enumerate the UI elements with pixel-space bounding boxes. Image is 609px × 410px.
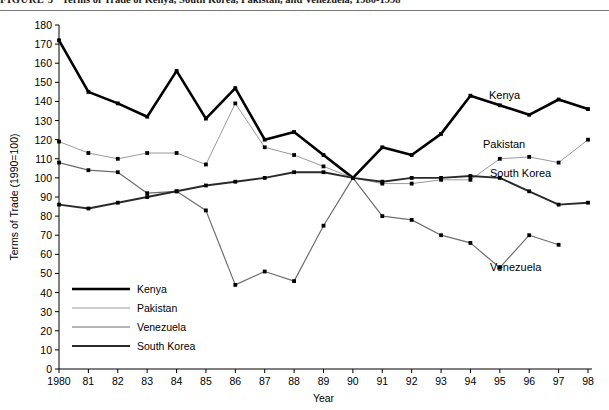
x-axis-tick-label: 1980 [47,375,71,387]
data-point-marker [557,243,561,247]
data-point-marker [175,151,179,155]
x-axis-tick-label: 95 [494,375,506,387]
y-axis-tick-label: 90 [40,191,52,203]
y-axis-tick-label: 40 [40,287,52,299]
x-axis-tick-label: 92 [406,375,418,387]
data-point-marker [175,189,179,193]
x-axis-tick-label: 93 [435,375,447,387]
data-point-marker [87,168,91,172]
data-point-marker [527,189,531,193]
data-point-marker [557,98,561,102]
y-axis-tick-label: 10 [40,344,52,356]
data-point-marker [87,207,91,211]
legend-label: South Korea [137,340,196,352]
data-point-marker [498,103,502,107]
data-point-marker [322,224,326,228]
data-point-marker [204,184,208,188]
series-inline-label-venezuela: Venezuela [490,261,542,273]
y-axis-tick-label: 120 [34,134,52,146]
data-point-marker [145,191,149,195]
x-axis-tick-label: 82 [112,375,124,387]
data-point-marker [263,176,267,180]
y-axis-tick-label: 50 [40,267,52,279]
data-point-marker [380,180,384,184]
data-point-marker [145,115,149,119]
data-point-marker [351,176,355,180]
data-point-marker [410,153,414,157]
x-axis-tick-label: 85 [200,375,212,387]
data-point-marker [410,218,414,222]
x-axis-title: Year [313,392,335,404]
data-point-marker [469,94,473,98]
y-axis-tick-label: 20 [40,325,52,337]
data-point-marker [292,170,296,174]
data-point-marker [57,38,61,42]
data-point-marker [263,145,267,149]
x-axis-tick-label: 94 [465,375,477,387]
x-axis-tick-label: 96 [523,375,535,387]
data-point-marker [469,241,473,245]
data-point-marker [175,69,179,73]
y-axis-tick-label: 110 [35,153,52,165]
y-axis-tick-label: 70 [40,229,52,241]
data-point-marker [527,233,531,237]
series-line [59,163,559,285]
legend-item-pakistan: Pakistan [72,302,177,314]
figure-container: FIGURE 5 Terms of Trade of Kenya, South … [0,0,609,410]
legend-item-kenya: Kenya [72,283,167,295]
data-point-marker [116,201,120,205]
data-point-marker [439,176,443,180]
legend-label: Pakistan [137,302,177,314]
legend-label: Kenya [137,283,167,295]
x-axis-tick-label: 98 [582,375,594,387]
data-point-marker [380,145,384,149]
data-point-marker [586,201,590,205]
x-axis-tick-label: 86 [229,375,241,387]
data-point-marker [469,174,473,178]
data-point-marker [145,151,149,155]
data-point-marker [87,90,91,94]
data-point-marker [292,153,296,157]
data-point-marker [145,195,149,199]
y-axis-tick-label: 140 [34,95,52,107]
y-axis-tick-label: 100 [34,172,52,184]
data-point-marker [410,182,414,186]
data-point-marker [410,176,414,180]
data-point-marker [57,140,61,144]
y-axis-tick-label: 130 [34,115,52,127]
y-axis-title: Terms of Trade (1990=100) [8,134,20,261]
x-axis-tick-label: 90 [347,375,359,387]
y-axis-tick-label: 0 [46,363,52,375]
series-inline-label-kenya: Kenya [489,89,521,101]
data-point-marker [527,113,531,117]
data-point-marker [204,163,208,167]
data-point-marker [322,170,326,174]
data-point-marker [233,102,237,106]
data-point-marker [57,203,61,207]
data-point-marker [233,283,237,287]
x-axis-tick-label: 88 [288,375,300,387]
y-axis-tick-label: 80 [40,210,52,222]
data-point-marker [557,203,561,207]
series-inline-label-pakistan: Pakistan [483,138,525,150]
data-point-marker [586,107,590,111]
data-point-marker [233,86,237,90]
data-point-marker [116,170,120,174]
y-axis-tick-label: 30 [40,306,52,318]
data-point-marker [439,233,443,237]
x-axis-tick-label: 81 [83,375,95,387]
data-point-marker [527,155,531,159]
data-point-marker [57,161,61,165]
legend-item-venezuela: Venezuela [72,321,186,333]
data-point-marker [204,209,208,213]
data-point-marker [322,165,326,169]
data-point-marker [116,102,120,106]
data-point-marker [233,180,237,184]
data-point-marker [586,138,590,142]
data-point-marker [87,151,91,155]
legend-item-south-korea: South Korea [72,340,196,352]
x-axis-tick-label: 84 [171,375,183,387]
data-point-marker [498,157,502,161]
y-axis-tick-label: 60 [40,248,52,260]
data-point-marker [292,279,296,283]
